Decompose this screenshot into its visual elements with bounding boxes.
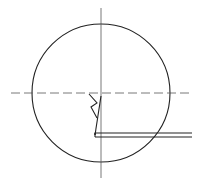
weld-zigzag-symbol [89, 94, 97, 118]
reference-line-top [95, 133, 192, 135]
technical-diagram [0, 0, 201, 181]
